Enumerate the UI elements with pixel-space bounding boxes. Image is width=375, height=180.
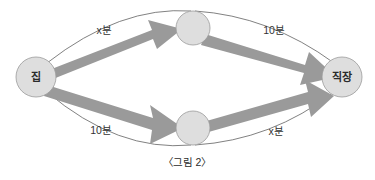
figure-caption: 〈그림 2〉: [163, 156, 212, 168]
node-via-bottom[interactable]: [176, 111, 210, 145]
node-work[interactable]: 직장: [322, 57, 362, 97]
node-home-label: 집: [31, 70, 41, 83]
edge-label-bottom-to-work: x분: [268, 125, 283, 137]
edge-label-top-to-work: 10분: [263, 24, 285, 36]
figure-container: 집 직장 x분 10분 10분 x분 〈그림 2〉: [0, 0, 375, 180]
block-arrow-home-to-bottom: [44, 85, 183, 144]
edge-label-home-to-bottom: 10분: [90, 124, 112, 136]
edge-label-home-to-top: x분: [96, 24, 111, 36]
block-arrow-top-to-work: [201, 34, 336, 85]
node-home[interactable]: 집: [16, 57, 56, 97]
node-via-top[interactable]: [176, 11, 210, 45]
block-arrow-home-to-top: [49, 20, 182, 79]
node-via-bottom-circle[interactable]: [176, 111, 210, 145]
node-via-top-circle[interactable]: [176, 11, 210, 45]
route-diagram: 집 직장 x분 10분 10분 x분 〈그림 2〉: [0, 0, 375, 180]
node-work-label: 직장: [332, 70, 352, 83]
